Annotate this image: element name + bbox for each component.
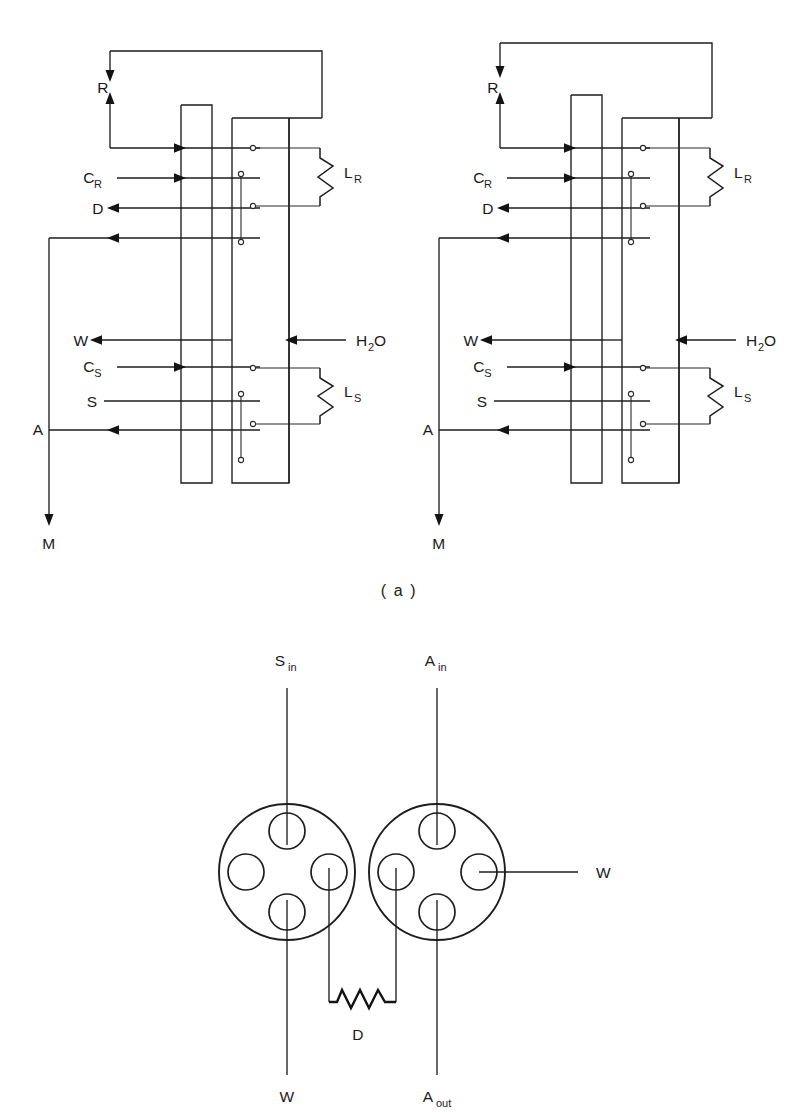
terminal-dot — [250, 145, 255, 150]
left-coil-LS — [238, 365, 333, 462]
arrow-left-row4-left — [107, 233, 119, 243]
left-port-left — [228, 854, 264, 890]
right-connector — [369, 688, 578, 1075]
terminal-dot — [640, 365, 645, 370]
label-M-right: M — [432, 535, 445, 552]
terminal-dot — [628, 391, 633, 396]
resistor-D — [329, 990, 396, 1008]
label-CS-right: C — [473, 358, 485, 375]
left-A-M-rail — [45, 238, 54, 526]
label-R-left: R — [97, 79, 109, 96]
arrow-down-M-left — [45, 514, 54, 526]
right-R-return — [496, 92, 505, 148]
right-H2O-inlet — [675, 335, 736, 345]
label-Aout-sub: out — [436, 1097, 451, 1109]
right-unit: R C R D W C S S A M H 2 O L R L S — [423, 43, 777, 552]
arrow-down-R-right — [496, 66, 505, 78]
terminal-dot — [640, 145, 645, 150]
label-LR-left: L — [344, 164, 353, 181]
arrow-right-CS-left — [174, 362, 186, 372]
label-CS-sub-left: S — [94, 367, 101, 379]
label-H2O-H-left: H — [356, 332, 368, 349]
arrow-left-H2O-left — [285, 335, 297, 345]
terminal-dot — [628, 171, 633, 176]
left-recycle-loop — [106, 51, 323, 118]
right-lower-ports — [439, 335, 602, 435]
label-Sin-sub: in — [288, 661, 297, 673]
terminal-dot — [238, 239, 243, 244]
label-D-right: D — [482, 200, 494, 217]
arrow-left-W-left — [90, 335, 102, 345]
arrow-right-R-in-left — [174, 143, 186, 153]
label-LS-sub-right: S — [744, 392, 751, 404]
right-coil-LS — [628, 365, 723, 462]
left-coil-LR — [238, 145, 333, 244]
arrow-right-CR-left — [174, 173, 186, 183]
left-unit: R C R D W C S S A M H 2 O L R L S — [33, 51, 387, 552]
right-column-housing — [622, 118, 712, 483]
left-upper-housing-taps — [212, 148, 260, 238]
label-LS-left: L — [344, 383, 353, 400]
terminal-dot — [250, 203, 255, 208]
arrow-left-A-right — [497, 425, 509, 435]
label-M-left: M — [42, 535, 55, 552]
label-LR-right: L — [734, 164, 743, 181]
label-S-right: S — [477, 393, 488, 410]
right-recycle-loop — [496, 43, 713, 118]
label-S-left: S — [87, 393, 98, 410]
connector-diagram: S in A in W W A out D — [219, 652, 611, 1109]
label-D-left: D — [92, 200, 104, 217]
label-D-resistor: D — [352, 1026, 364, 1043]
left-H2O-inlet — [285, 335, 346, 345]
terminal-dot — [628, 239, 633, 244]
arrow-down-M-right — [435, 514, 444, 526]
arrow-left-H2O-right — [675, 335, 687, 345]
label-H2O-H-right: H — [746, 332, 758, 349]
figure-root: R C R D W C S S A M H 2 O L R L S — [0, 0, 798, 1112]
right-coil-LR — [628, 145, 723, 244]
left-upper-ports — [49, 143, 212, 243]
label-CS-sub-right: S — [484, 367, 491, 379]
arrow-right-R-in-right — [564, 143, 576, 153]
label-Ain: A — [425, 652, 436, 669]
label-LR-sub-right: R — [744, 173, 752, 185]
terminal-dot — [250, 365, 255, 370]
label-Sin: S — [275, 652, 286, 669]
arrow-left-row4-right — [497, 233, 509, 243]
arrow-right-CR-right — [564, 173, 576, 183]
right-upper-housing-taps — [602, 148, 650, 238]
label-H2O-O-left: O — [374, 332, 386, 349]
label-LS-right: L — [734, 383, 743, 400]
label-CR-sub-right: R — [484, 178, 492, 190]
technical-schematic-figure: R C R D W C S S A M H 2 O L R L S — [0, 0, 798, 1112]
left-R-return — [106, 92, 115, 148]
left-valve-body — [181, 105, 212, 483]
left-lower-ports — [49, 335, 212, 435]
left-column-housing — [232, 118, 322, 483]
arrow-left-A-left — [107, 425, 119, 435]
label-A-right: A — [423, 421, 434, 438]
terminal-dot — [250, 421, 255, 426]
label-W-bottom: W — [279, 1088, 294, 1105]
label-CR-sub-left: R — [94, 178, 102, 190]
arrow-left-W-right — [480, 335, 492, 345]
terminal-dot — [640, 203, 645, 208]
terminal-dot — [238, 171, 243, 176]
left-connector — [219, 688, 355, 1075]
panel-label-a: ( a ) — [381, 582, 417, 599]
label-W-right: W — [463, 332, 478, 349]
label-Ain-sub: in — [438, 661, 447, 673]
left-lower-housing-taps — [212, 340, 260, 430]
right-upper-ports — [439, 143, 602, 243]
label-W-left: W — [73, 332, 88, 349]
right-lower-housing-taps — [602, 340, 650, 430]
label-Aout: A — [423, 1088, 434, 1105]
arrow-left-D-right — [497, 203, 509, 213]
label-W-right: W — [596, 864, 611, 881]
label-CS-left: C — [83, 358, 95, 375]
right-valve-body — [571, 95, 602, 483]
label-A-left: A — [33, 421, 44, 438]
terminal-dot — [640, 421, 645, 426]
label-LS-sub-left: S — [354, 392, 361, 404]
right-A-M-rail — [435, 238, 444, 526]
